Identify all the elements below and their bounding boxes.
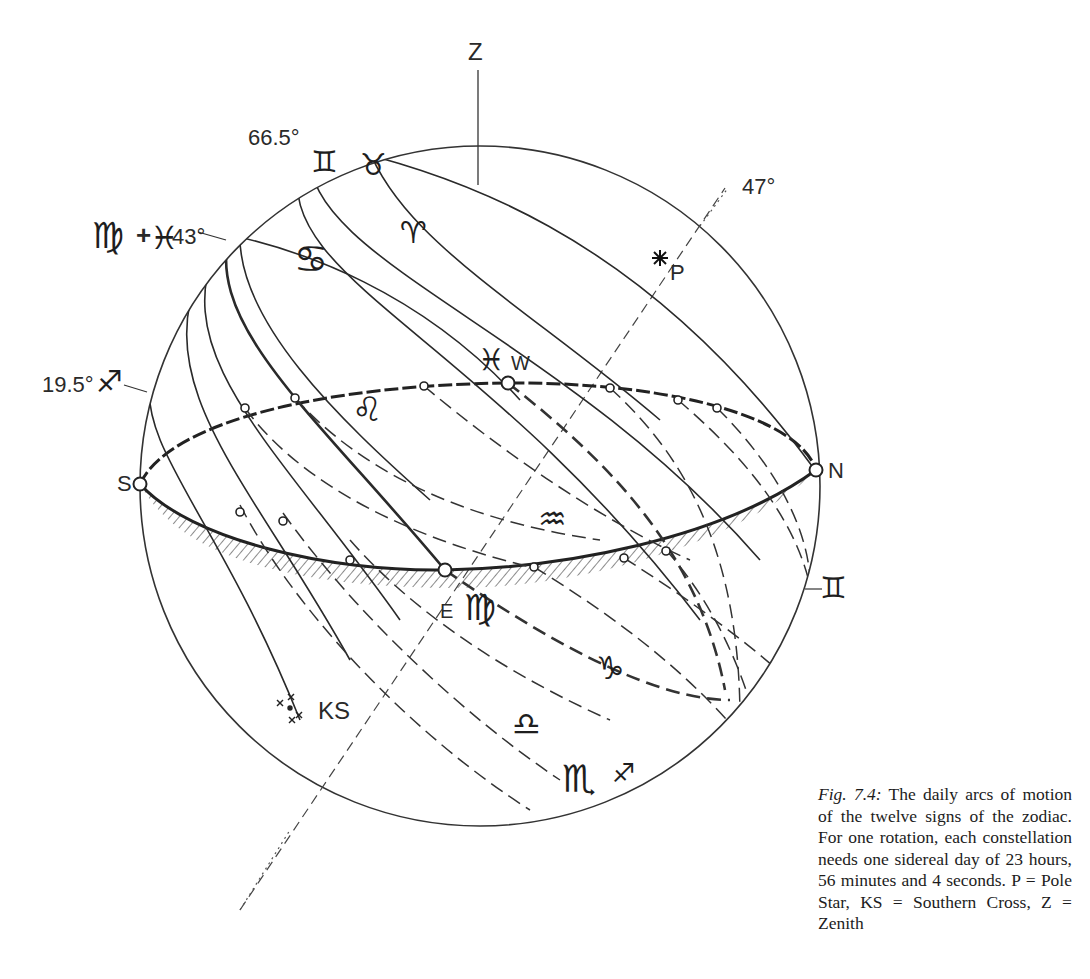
virgo-label-icon: ♍ (92, 218, 124, 254)
caption-text: The daily arcs of motion of the twelve s… (818, 784, 1072, 933)
sagittarius-bottom-icon: ♐ (612, 760, 635, 786)
southern-cross-icon (277, 694, 302, 723)
cancer-icon: ♋ (294, 240, 328, 278)
pisces-label-icon: ♓ (150, 222, 179, 254)
virgo-east-icon: ♍ (464, 590, 496, 626)
celestial-sphere (140, 146, 820, 826)
pole-star-label: P (670, 262, 685, 284)
west-label: W (511, 353, 530, 373)
arc-cancer (187, 270, 350, 660)
ground-hatching (140, 470, 816, 588)
aries-icon: ♈ (400, 218, 427, 248)
taurus-icon: ♉ (360, 150, 387, 180)
south-label: S (117, 473, 132, 495)
leo-icon: ♌ (352, 392, 382, 426)
east-label: E (440, 601, 453, 621)
sagittarius-label-icon: ♐ (96, 367, 123, 397)
zenith-label: Z (468, 40, 483, 64)
figure-number: Fig. 7.4: (818, 784, 882, 804)
southern-cross-label: KS (318, 699, 350, 723)
pisces-west-icon: ♓ (478, 345, 505, 375)
south-point (134, 478, 147, 491)
angle-47-label: 47° (742, 176, 775, 198)
capricorn-icon: ♑ (596, 652, 625, 684)
angle-19-5-label: 19.5° (42, 374, 94, 396)
west-point (502, 377, 515, 390)
figure-caption: Fig. 7.4: The daily arcs of motion of th… (818, 784, 1072, 935)
arc-virgo-pisces-bold (226, 240, 445, 570)
arc-pisces (230, 235, 520, 400)
scorpio-icon: ♏ (562, 760, 596, 798)
gemini-top-icon: ♊ (311, 147, 338, 177)
arc-taurus (310, 150, 760, 560)
north-label: N (828, 460, 844, 482)
gemini-right-icon: ♊ (820, 573, 847, 603)
libra-icon: ♎ (512, 708, 541, 740)
north-point (810, 464, 823, 477)
east-point (439, 564, 452, 577)
plus-label: + (136, 222, 151, 248)
aquarius-icon: ♒ (538, 503, 567, 535)
angle-66-5-label: 66.5° (248, 127, 300, 149)
pole-star-icon (652, 250, 668, 266)
